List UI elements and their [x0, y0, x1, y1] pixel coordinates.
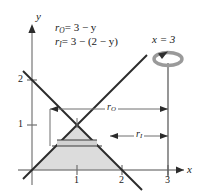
inner-radius-arrowhead-right: [160, 133, 168, 139]
equation-inner-radius-lhs: rI: [55, 35, 62, 47]
x-tick-label-3: 3: [165, 175, 170, 185]
x-tick-label-1: 1: [74, 175, 79, 185]
axis-of-revolution-label: x = 3: [152, 34, 175, 45]
equation-inner-radius: rI= 3 − (2 − y): [55, 36, 118, 48]
equation-outer-radius: rO= 3 − y: [55, 22, 96, 34]
outer-radius-label: rO: [105, 102, 118, 113]
x-tick-label-2: 2: [119, 175, 124, 185]
representative-strip: [57, 140, 97, 146]
equation-inner-radius-rhs: = 3 − (2 − y): [62, 35, 118, 47]
line-y-equals-2-minus-x: [23, 71, 142, 190]
inner-radius-arrowhead-left: [110, 133, 118, 139]
y-tick-label-1: 1: [18, 119, 23, 129]
y-axis-label: y: [36, 11, 41, 22]
shaded-region: [32, 125, 122, 170]
y-axis-arrowhead: [28, 24, 35, 33]
equation-outer-radius-lhs: rO: [55, 21, 65, 33]
outer-radius-arrowhead-left: [50, 106, 58, 112]
y-tick-label-2: 2: [18, 74, 23, 84]
x-axis-arrowhead: [176, 166, 184, 173]
inner-radius-label-subscript: I: [140, 132, 142, 139]
outer-radius-arrowhead-right: [160, 106, 168, 112]
equation-outer-radius-rhs: = 3 − y: [65, 21, 97, 33]
outer-radius-label-subscript: O: [111, 105, 116, 112]
x-axis-label: x: [187, 164, 192, 175]
math-diagram-svg: [0, 0, 199, 195]
inner-radius-label: rI: [134, 129, 144, 140]
figure-canvas: rO= 3 − y rI= 3 − (2 − y) x = 3 y x 1 2 …: [0, 0, 199, 195]
